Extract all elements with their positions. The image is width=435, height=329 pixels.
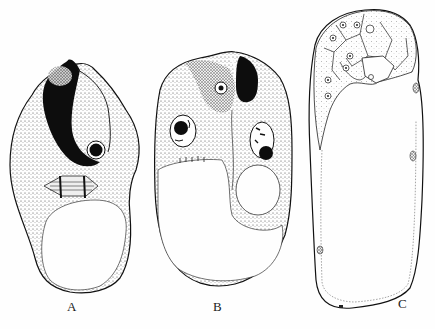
panel-label-b: B (213, 299, 222, 315)
panel-label-a: A (67, 299, 76, 315)
panel-label-c: C (398, 296, 407, 312)
illustration-svg (0, 0, 435, 329)
cell-b-left-nucleus (170, 115, 196, 147)
cell-c (309, 10, 423, 309)
cell-b (155, 52, 292, 286)
cell-a (10, 60, 139, 293)
figure-plate: A B C (0, 0, 435, 329)
